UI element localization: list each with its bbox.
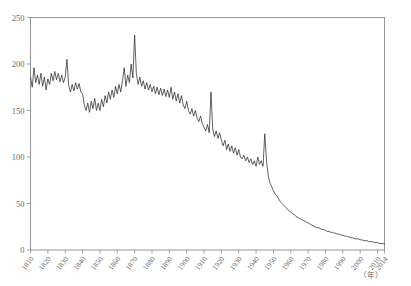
x-axis-unit-label: （年）	[359, 270, 383, 280]
plot-frame	[31, 18, 385, 251]
x-tick-label: 1890	[158, 254, 174, 271]
x-axis-labels: 1810182018301840185018601870188018901900…	[19, 254, 389, 271]
x-tick-label: 1820	[37, 254, 53, 271]
y-tick-label: 50	[16, 199, 25, 209]
x-tick-label: 1900	[176, 254, 192, 271]
x-tick-label: 1990	[332, 254, 348, 271]
chart-figure: 050100150200250 181018201830184018501860…	[0, 0, 411, 286]
data-series-line	[31, 35, 385, 244]
y-tick-label: 150	[12, 106, 25, 116]
y-tick-label: 250	[12, 13, 25, 23]
y-axis-labels: 050100150200250	[12, 13, 25, 256]
x-tick-label: 1910	[193, 254, 209, 271]
x-tick-label: 1840	[71, 254, 87, 271]
x-tick-label: 1870	[124, 254, 140, 271]
x-axis-ticks	[31, 250, 385, 254]
x-tick-label: 1960	[280, 254, 296, 271]
x-tick-label: 1940	[245, 254, 261, 271]
x-tick-label: 1850	[89, 254, 105, 271]
x-tick-label: 1980	[314, 254, 330, 271]
x-tick-label: 1880	[141, 254, 157, 271]
x-tick-label: 2000	[349, 254, 365, 271]
ghost-header-text	[34, 0, 364, 6]
x-tick-label: 1830	[54, 254, 70, 271]
y-tick-label: 0	[20, 245, 24, 255]
y-tick-label: 100	[12, 152, 25, 162]
y-axis-ticks	[27, 18, 31, 251]
line-chart-plot: 050100150200250 181018201830184018501860…	[0, 0, 411, 286]
x-tick-label: 1950	[262, 254, 278, 271]
x-tick-label: 1970	[297, 254, 313, 271]
x-tick-label: 1860	[106, 254, 122, 271]
x-tick-label: 1810	[19, 254, 35, 271]
x-tick-label: 1930	[228, 254, 244, 271]
x-tick-label: 1920	[210, 254, 226, 271]
y-tick-label: 200	[12, 59, 25, 69]
